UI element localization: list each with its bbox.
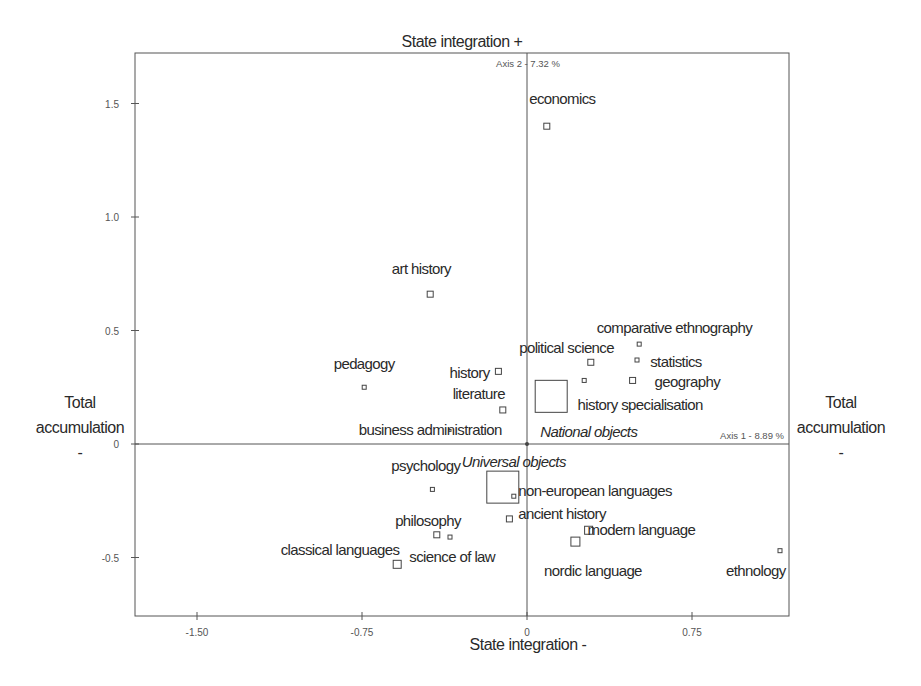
y-axis-title-right-line1: Total: [825, 394, 856, 411]
point-marker: [495, 368, 501, 374]
x-axis-title-bottom: State integration -: [470, 636, 587, 653]
point-label: non-european languages: [518, 482, 672, 499]
point-marker: [582, 378, 586, 382]
point-marker: [635, 358, 639, 362]
point-marker: [427, 291, 433, 297]
y-tick-label: 0: [113, 439, 119, 450]
point-marker: [535, 380, 567, 412]
point-marker: [393, 560, 401, 568]
ticks: -1.50-0.7500.751.51.00.50-0.5: [102, 99, 702, 639]
x-tick-label: -0.75: [351, 627, 374, 638]
correspondence-analysis-chart: -1.50-0.7500.751.51.00.50-0.5 economicsa…: [0, 0, 921, 686]
y-tick-label: 1.5: [105, 99, 119, 110]
point-label: comparative ethnography: [597, 319, 754, 336]
x-axis-title-top: State integration +: [402, 33, 523, 50]
point-marker: [362, 385, 366, 389]
axis1-inertia-label: Axis 1 - 8.89 %: [720, 430, 784, 441]
point-marker: [637, 342, 641, 346]
point-label: statistics: [650, 353, 702, 370]
point-label: economics: [529, 90, 595, 107]
point-marker: [778, 549, 782, 553]
point-marker: [512, 494, 516, 498]
x-tick-label: -1.50: [186, 627, 209, 638]
point-label: ethnology: [726, 562, 787, 579]
point-marker: [430, 487, 434, 491]
point-label: political science: [519, 339, 614, 356]
y-axis-title-right-line2: accumulation: [797, 419, 885, 436]
point-label: history specialisation: [578, 396, 703, 413]
point-label: classical languages: [281, 541, 400, 558]
point-marker: [588, 359, 594, 365]
point-label: nordic language: [544, 562, 642, 579]
point-label: art history: [392, 260, 452, 277]
point-label: history: [450, 364, 491, 381]
point-label: geography: [655, 373, 722, 390]
point-labels: economicsart historypedagogyhistoryliter…: [281, 90, 787, 579]
point-label: modern language: [588, 521, 696, 538]
point-label: science of law: [409, 548, 496, 565]
point-marker: [434, 532, 440, 538]
y-tick-label: 1.0: [105, 212, 119, 223]
point-marker: [448, 535, 452, 539]
point-label: philosophy: [395, 512, 462, 529]
y-axis-title-left-line3: -: [78, 444, 83, 461]
point-marker: [500, 407, 506, 413]
annotation-label: National objects: [540, 423, 638, 440]
y-axis-title-left-line2: accumulation: [36, 419, 124, 436]
y-axis-title-right-line3: -: [839, 444, 844, 461]
annotation-label: Universal objects: [462, 453, 567, 470]
axis2-inertia-label: Axis 2 - 7.32 %: [496, 58, 560, 69]
y-axis-title-left-line1: Total: [64, 394, 95, 411]
point-marker: [506, 516, 512, 522]
y-tick-label: -0.5: [102, 553, 120, 564]
point-label: pedagogy: [334, 355, 396, 372]
point-marker: [571, 537, 580, 546]
point-label: literature: [453, 385, 506, 402]
origin-dot: [525, 442, 529, 446]
x-tick-label: 0.75: [682, 627, 702, 638]
point-label: business administration: [359, 421, 502, 438]
point-label: ancient history: [518, 505, 607, 522]
point-label: psychology: [391, 457, 461, 474]
point-marker: [630, 377, 636, 383]
point-marker: [544, 123, 550, 129]
y-tick-label: 0.5: [105, 326, 119, 337]
